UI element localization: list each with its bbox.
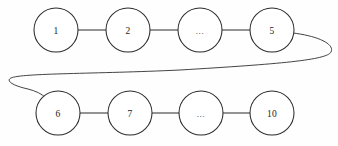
node-10[interactable]: 10	[250, 91, 294, 135]
node-link-diagram: 1 2 ... 5 6 7	[0, 0, 338, 146]
node-2-label: 2	[126, 26, 131, 36]
node-7-label: 7	[128, 109, 133, 119]
node-5[interactable]: 5	[250, 8, 294, 52]
node-1[interactable]: 1	[34, 8, 78, 52]
node-1-label: 1	[54, 26, 59, 36]
node-ellipsis-bottom-label: ...	[197, 109, 206, 119]
node-7[interactable]: 7	[108, 91, 152, 135]
diagram-container: 1 2 ... 5 6 7	[0, 0, 338, 146]
node-ellipsis-bottom[interactable]: ...	[179, 91, 223, 135]
node-10-label: 10	[267, 109, 277, 119]
node-6[interactable]: 6	[36, 91, 80, 135]
node-ellipsis-top[interactable]: ...	[178, 8, 222, 52]
node-6-label: 6	[56, 109, 61, 119]
node-5-label: 5	[270, 26, 275, 36]
node-ellipsis-top-label: ...	[196, 26, 205, 36]
node-2[interactable]: 2	[106, 8, 150, 52]
